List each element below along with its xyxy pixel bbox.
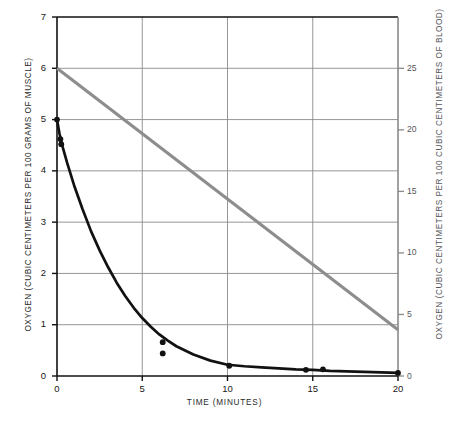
y-axis-label-right: OXYGEN (CUBIC CENTIMETERS PER 100 CUBIC … <box>435 10 444 340</box>
y-tick-label-right: 10 <box>407 247 425 257</box>
y-axis-label-left: OXYGEN (CUBIC CENTIMETERS PER 100 GRAMS … <box>24 45 33 345</box>
y-tick-label-right: 25 <box>407 63 425 73</box>
y-tick-label-left: 4 <box>30 164 46 175</box>
y-tick-label-right: 20 <box>407 124 425 134</box>
y-tick-label-left: 2 <box>30 267 46 278</box>
gridlines-group <box>57 17 398 376</box>
x-tick-label: 20 <box>388 383 408 394</box>
y-tick-label-left: 3 <box>30 216 46 227</box>
y-tick-label-left: 7 <box>30 11 46 22</box>
chart-figure: OXYGEN (CUBIC CENTIMETERS PER 100 GRAMS … <box>0 0 449 422</box>
y-tick-label-left: 6 <box>30 62 46 73</box>
y-tick-label-left: 1 <box>30 318 46 329</box>
x-tick-label: 5 <box>132 383 152 394</box>
y-tick-label-right: 15 <box>407 186 425 196</box>
x-tick-label: 15 <box>303 383 323 394</box>
y-tick-label-left: 0 <box>30 370 46 381</box>
y-tick-label-right: 5 <box>407 309 425 319</box>
y-tick-label-left: 5 <box>30 113 46 124</box>
chart-plot-area <box>0 0 449 422</box>
x-axis-label: TIME (MINUTES) <box>0 398 449 407</box>
x-tick-label: 0 <box>47 383 67 394</box>
x-tick-label: 10 <box>218 383 238 394</box>
y-tick-label-right: 0 <box>407 371 425 381</box>
